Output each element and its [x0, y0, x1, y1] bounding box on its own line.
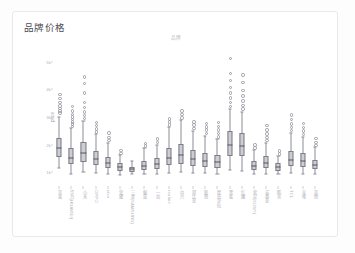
outlier-point: [229, 72, 233, 76]
x-axis-tick-label: 一加: [154, 190, 158, 198]
whisker-lower: [241, 156, 242, 170]
x-axis-tick-mark: [241, 186, 242, 189]
boxplot-group: [90, 48, 102, 186]
outlier-point: [83, 91, 87, 95]
whisker-cap-lower: [94, 172, 97, 173]
outlier-point: [302, 126, 306, 130]
x-axis-tick-label: 荣耀: [118, 190, 122, 198]
x-axis-tick-label: 中兴: [179, 190, 183, 198]
boxplot-group: [260, 48, 272, 186]
median-line: [276, 167, 281, 168]
outlier-point: [265, 128, 269, 132]
whisker-upper: [83, 121, 84, 142]
outlier-point: [58, 101, 62, 105]
outlier-point: [107, 139, 111, 143]
x-axis-tick-mark: [290, 186, 291, 189]
whisker-upper: [71, 128, 72, 148]
outlier-point: [217, 125, 221, 129]
x-axis-tick-label: 华为(HUAWEI): [69, 190, 73, 219]
screenshot-root: 品牌价格 品牌 price 5k4k3k2k1k苹果华为(HUAWEI)小米OP…: [0, 0, 355, 253]
outlier-point: [156, 141, 160, 145]
boxplot-group: [297, 48, 309, 186]
x-axis-tick-mark: [71, 186, 72, 189]
outlier-point: [265, 139, 269, 143]
whisker-cap-lower: [216, 173, 219, 174]
plot-axes-area: price 5k4k3k2k1k苹果华为(HUAWEI)小米OPPOvivo荣耀…: [53, 48, 321, 186]
outlier-point: [314, 137, 318, 141]
whisker-cap-upper: [204, 135, 207, 136]
outlier-point: [278, 149, 282, 153]
x-axis-tick-mark: [59, 186, 60, 189]
boxplot-group: [138, 48, 150, 186]
boxplot-group: [284, 48, 296, 186]
median-line: [166, 157, 171, 158]
outlier-point: [314, 141, 318, 145]
median-line: [300, 161, 305, 162]
x-axis-tick-label: 其他: [313, 190, 317, 198]
whisker-lower: [229, 156, 230, 170]
whisker-cap-lower: [57, 168, 60, 169]
boxplot-group: [53, 48, 65, 186]
whisker-cap-lower: [313, 173, 316, 174]
outlier-point: [71, 105, 75, 109]
median-line: [312, 165, 317, 166]
outlier-point: [302, 129, 306, 133]
boxplot-group: [211, 48, 223, 186]
x-axis-tick-label: vivo: [106, 190, 110, 198]
whisker-cap-lower: [143, 173, 146, 174]
outlier-point: [83, 82, 87, 86]
whisker-cap-upper: [167, 127, 170, 128]
outlier-point: [58, 97, 62, 101]
outlier-point: [107, 131, 111, 135]
outlier-point: [58, 104, 62, 108]
whisker-cap-lower: [204, 173, 207, 174]
median-line: [105, 163, 110, 164]
x-axis-tick-label: 红魔: [240, 190, 244, 198]
whisker-cap-lower: [179, 172, 182, 173]
median-line: [154, 163, 159, 164]
outlier-point: [265, 124, 269, 128]
boxplot-group: [309, 48, 321, 186]
median-line: [215, 162, 220, 163]
whisker-cap-upper: [155, 144, 158, 145]
outlier-point: [192, 120, 196, 124]
whisker-upper: [314, 147, 315, 159]
brand-price-card: 品牌价格 品牌 price 5k4k3k2k1k苹果华为(HUAWEI)小米OP…: [12, 11, 338, 237]
median-line: [178, 155, 183, 156]
outlier-point: [241, 99, 245, 103]
outlier-point: [156, 137, 160, 141]
outlier-point: [241, 73, 245, 77]
x-axis-tick-label: 黑鲨: [228, 190, 232, 198]
boxplot-group: [248, 48, 260, 186]
whisker-cap-upper: [265, 142, 268, 143]
median-line: [251, 166, 256, 167]
x-axis-tick-mark: [156, 186, 157, 189]
x-axis-tick-label: 联想: [203, 190, 207, 198]
whisker-upper: [266, 143, 267, 156]
boxplot-group: [187, 48, 199, 186]
box: [69, 148, 74, 165]
whisker-lower: [59, 157, 60, 168]
outlier-point: [83, 117, 87, 121]
outlier-point: [119, 149, 123, 153]
x-axis-tick-mark: [144, 186, 145, 189]
boxplot-group: [224, 48, 236, 186]
outlier-point: [217, 135, 221, 139]
whisker-cap-upper: [289, 133, 292, 134]
outlier-point: [290, 113, 294, 117]
whisker-cap-lower: [106, 174, 109, 175]
whisker-cap-upper: [131, 161, 134, 162]
x-axis-tick-label: 摩托罗拉: [215, 190, 219, 207]
whisker-cap-upper: [228, 109, 231, 110]
whisker-upper: [180, 120, 181, 144]
whisker-cap-lower: [167, 172, 170, 173]
outlier-point: [95, 121, 99, 125]
x-axis-tick-label: 索尼(SONY): [252, 190, 256, 214]
outlier-point: [241, 104, 245, 108]
boxplot-group: [114, 48, 126, 186]
whisker-cap-lower: [289, 173, 292, 174]
x-axis-tick-mark: [107, 186, 108, 189]
outlier-point: [119, 152, 123, 156]
whisker-cap-upper: [179, 120, 182, 121]
x-axis-tick-mark: [217, 186, 218, 189]
